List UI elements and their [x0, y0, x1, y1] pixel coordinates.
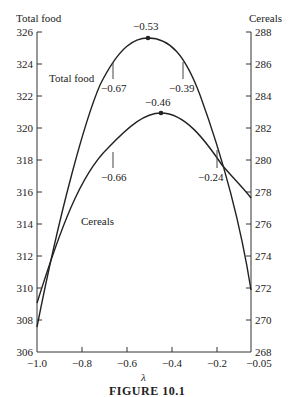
right-axis-ticks: 268270272274276278280282284286288: [246, 26, 272, 358]
left-tick-label: 318: [17, 154, 34, 166]
total-food-max-marker: [146, 36, 151, 41]
left-tick-label: 316: [17, 186, 34, 198]
right-tick-label: 284: [255, 90, 272, 102]
x-tick-label: −0.8: [72, 357, 92, 369]
cereals-curve: [37, 113, 251, 303]
right-tick-label: 274: [255, 250, 272, 262]
x-tick-label: −0.4: [162, 357, 182, 369]
right-tick-label: 282: [255, 122, 272, 134]
total-food-marker-left-label: −0.67: [101, 82, 127, 94]
figure-chart: 306308310312314316318320322324326 268270…: [0, 0, 288, 397]
right-tick-label: 280: [255, 154, 272, 166]
x-axis-ticks: −1.0−0.8−0.6−0.4−0.2−0.05: [27, 347, 272, 369]
marker-ticks: [113, 62, 217, 168]
left-tick-label: 324: [17, 58, 34, 70]
x-axis-title: λ: [140, 371, 146, 383]
cereals-max-label: −0.46: [145, 96, 171, 108]
left-tick-label: 310: [17, 282, 34, 294]
right-tick-label: 286: [255, 58, 272, 70]
right-tick-label: 288: [255, 26, 272, 38]
left-tick-label: 312: [17, 250, 34, 262]
cereals-marker-left-label: −0.66: [101, 171, 127, 183]
left-axis-title: Total food: [16, 12, 62, 24]
cereals-max-marker: [159, 111, 164, 116]
x-tick-label: −0.6: [117, 357, 137, 369]
x-tick-label: −0.2: [207, 357, 227, 369]
x-tick-label: −0.05: [246, 357, 272, 369]
total-food-series-label: Total food: [49, 72, 95, 84]
x-tick-label: −1.0: [27, 357, 47, 369]
right-tick-label: 270: [255, 314, 272, 326]
total-food-marker-right-label: −0.39: [169, 82, 195, 94]
right-tick-label: 272: [255, 282, 272, 294]
total-food-max-label: −0.53: [133, 20, 159, 32]
left-tick-label: 322: [17, 90, 34, 102]
cereals-series-label: Cereals: [81, 215, 114, 227]
left-tick-label: 308: [17, 314, 34, 326]
right-tick-label: 276: [255, 218, 272, 230]
right-axis-title: Cereals: [249, 12, 282, 24]
left-tick-label: 314: [17, 218, 34, 230]
left-tick-label: 320: [17, 122, 34, 134]
right-tick-label: 278: [255, 186, 272, 198]
cereals-marker-right-label: −0.24: [198, 171, 224, 183]
left-axis-ticks: 306308310312314316318320322324326: [17, 26, 43, 358]
left-tick-label: 326: [17, 26, 34, 38]
figure-caption: FIGURE 10.1: [109, 384, 185, 397]
